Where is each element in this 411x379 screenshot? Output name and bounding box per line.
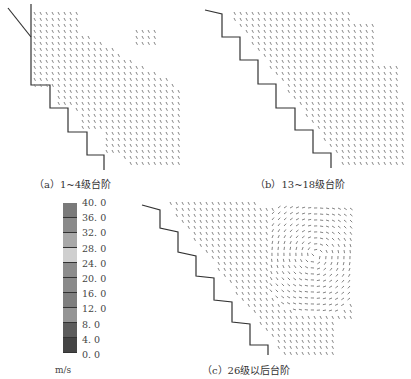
velocity-vector — [284, 346, 285, 349]
velocity-vector — [82, 114, 83, 117]
velocity-vector — [260, 268, 261, 271]
velocity-vector — [306, 84, 307, 87]
velocity-vector — [278, 229, 280, 232]
velocity-vector — [329, 280, 332, 282]
velocity-vector — [130, 156, 131, 159]
velocity-vector — [236, 256, 237, 259]
velocity-vector — [283, 259, 284, 262]
velocity-vector — [277, 265, 278, 268]
colorbar-segment — [63, 308, 77, 323]
velocity-vector — [284, 247, 285, 250]
velocity-vector — [354, 138, 355, 141]
velocity-vector — [248, 214, 249, 217]
velocity-vector — [348, 126, 349, 129]
velocity-vector — [390, 66, 391, 69]
velocity-vector — [348, 102, 349, 105]
velocity-vector — [360, 162, 361, 165]
velocity-vector — [118, 150, 119, 153]
velocity-vector — [306, 12, 307, 15]
velocity-vector — [308, 316, 309, 319]
velocity-vector — [58, 48, 59, 51]
velocity-vector — [178, 150, 179, 153]
velocity-vector — [329, 286, 332, 288]
velocity-vector — [290, 316, 291, 319]
velocity-vector — [276, 24, 277, 27]
velocity-vector — [348, 162, 349, 165]
velocity-vector — [272, 334, 273, 337]
velocity-vector — [264, 36, 265, 39]
velocity-vector — [136, 96, 137, 99]
velocity-vector — [342, 132, 343, 135]
velocity-vector — [112, 78, 113, 81]
velocity-vector — [282, 30, 283, 33]
velocity-vector — [270, 60, 271, 63]
velocity-vector — [360, 132, 361, 135]
velocity-vector — [52, 12, 53, 15]
velocity-vector — [118, 132, 119, 135]
velocity-vector — [336, 150, 337, 153]
velocity-vector — [278, 218, 280, 220]
velocity-vector — [324, 60, 325, 63]
velocity-vector — [300, 72, 301, 75]
velocity-vector — [329, 292, 332, 293]
velocity-vector — [124, 144, 125, 147]
velocity-vector — [236, 232, 237, 235]
velocity-vector — [260, 286, 261, 289]
velocity-vector — [360, 90, 361, 93]
velocity-vector — [178, 132, 179, 135]
velocity-vector — [300, 54, 301, 57]
velocity-vector — [390, 108, 391, 111]
velocity-vector — [136, 126, 137, 129]
velocity-vector — [76, 90, 77, 93]
velocity-vector — [342, 150, 343, 153]
velocity-vector — [276, 60, 277, 63]
velocity-vector — [266, 292, 267, 295]
velocity-vector — [320, 352, 321, 355]
velocity-vector — [130, 144, 131, 147]
velocity-vector — [271, 271, 272, 274]
velocity-vector — [318, 90, 319, 93]
velocity-vector — [290, 328, 291, 331]
velocity-vector — [329, 310, 332, 311]
velocity-vector — [76, 36, 77, 39]
velocity-vector — [300, 60, 301, 63]
velocity-vector — [308, 237, 311, 238]
velocity-vector — [284, 328, 285, 331]
velocity-vector — [384, 138, 385, 141]
velocity-vector — [100, 48, 101, 51]
velocity-vector — [348, 48, 349, 51]
velocity-vector — [188, 220, 189, 223]
velocity-vector — [300, 90, 301, 93]
velocity-vector — [348, 280, 350, 283]
velocity-vector — [242, 274, 243, 277]
velocity-vector — [360, 126, 361, 129]
velocity-vector — [206, 244, 207, 247]
velocity-vector — [270, 42, 271, 45]
velocity-vector — [336, 138, 337, 141]
velocity-vector — [282, 278, 284, 280]
velocity-vector — [206, 226, 207, 229]
velocity-vector — [52, 30, 53, 33]
velocity-vector — [100, 108, 101, 111]
velocity-vector — [330, 126, 331, 129]
velocity-vector — [360, 114, 361, 117]
velocity-vector — [58, 24, 59, 27]
velocity-vector — [58, 66, 59, 69]
velocity-vector — [58, 60, 59, 63]
velocity-vector — [200, 220, 201, 223]
velocity-vector — [372, 30, 373, 33]
velocity-vector — [326, 214, 329, 215]
velocity-vector — [58, 78, 59, 81]
velocity-vector — [308, 334, 309, 337]
velocity-vector — [230, 280, 231, 283]
velocity-vector — [230, 232, 231, 235]
velocity-vector — [306, 48, 307, 51]
velocity-vector — [94, 126, 95, 129]
velocity-vector — [70, 42, 71, 45]
velocity-vector — [236, 286, 237, 289]
velocity-vector — [112, 84, 113, 87]
velocity-vector — [88, 72, 89, 75]
velocity-vector — [306, 30, 307, 33]
velocity-vector — [160, 150, 161, 153]
velocity-vector — [160, 114, 161, 117]
